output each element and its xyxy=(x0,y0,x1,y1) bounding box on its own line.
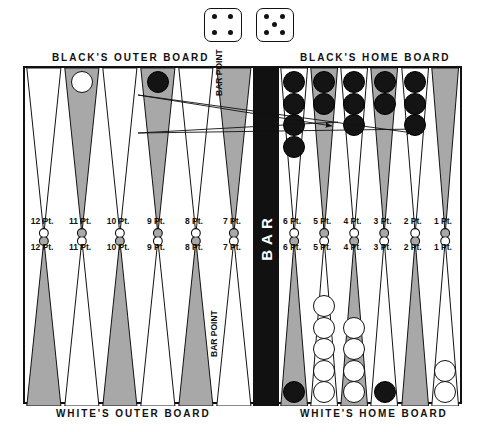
die-right-pip xyxy=(280,30,285,35)
point-12-bottom[interactable] xyxy=(26,237,62,406)
point-label-1-bottom: 1 Pt. xyxy=(427,216,459,226)
checker-black[interactable] xyxy=(374,381,396,403)
die-left-pip xyxy=(212,30,217,35)
point-label-11-top: 11 Pt. xyxy=(64,242,96,252)
point-12-top[interactable] xyxy=(26,68,62,237)
backgammon-diagram: BAR BAR POINT BAR POINT BLACK'S OUTER BO… xyxy=(0,0,485,432)
point-9-bottom[interactable] xyxy=(140,237,176,406)
caption-whites-outer-board: WHITE'S OUTER BOARD xyxy=(56,408,211,419)
point-label-10-top: 10 Pt. xyxy=(102,242,134,252)
point-label-5-top: 5 Pt. xyxy=(306,242,338,252)
point-label-8-bottom: 8 Pt. xyxy=(178,216,210,226)
bar-label: BAR xyxy=(258,213,275,261)
checker-black[interactable] xyxy=(283,93,305,115)
point-triangle xyxy=(102,68,138,237)
die-right xyxy=(256,8,294,42)
die-right-pip xyxy=(264,30,269,35)
dice-area xyxy=(0,4,485,46)
point-label-7-bottom: 7 Pt. xyxy=(216,216,248,226)
point-5-bottom[interactable] xyxy=(310,237,338,406)
checker-black[interactable] xyxy=(313,93,335,115)
backgammon-board: BAR xyxy=(23,66,462,404)
point-triangle xyxy=(401,237,429,406)
point-9-top[interactable] xyxy=(140,68,176,237)
point-10-bottom[interactable] xyxy=(102,237,138,406)
point-8-top[interactable] xyxy=(178,68,214,237)
checker-black[interactable] xyxy=(283,381,305,403)
point-triangle xyxy=(178,68,214,237)
die-left-pip xyxy=(212,14,217,19)
checker-black[interactable] xyxy=(374,71,396,93)
point-label-7-top: 7 Pt. xyxy=(216,242,248,252)
checker-black[interactable] xyxy=(404,114,426,136)
point-2-top[interactable] xyxy=(401,68,429,237)
checker-black[interactable] xyxy=(404,93,426,115)
checker-black[interactable] xyxy=(147,71,169,93)
checker-white[interactable] xyxy=(434,360,456,382)
point-label-2-top: 2 Pt. xyxy=(397,242,429,252)
point-label-6-top: 6 Pt. xyxy=(276,242,308,252)
die-left-pip xyxy=(228,14,233,19)
point-triangle xyxy=(102,237,138,406)
bar: BAR xyxy=(253,68,279,406)
checker-white[interactable] xyxy=(71,71,93,93)
die-right-pip xyxy=(280,14,285,19)
die-left xyxy=(204,8,242,42)
point-label-10-bottom: 10 Pt. xyxy=(102,216,134,226)
checker-white[interactable] xyxy=(313,360,335,382)
point-6-top[interactable] xyxy=(280,68,308,237)
checker-black[interactable] xyxy=(404,71,426,93)
point-label-1-top: 1 Pt. xyxy=(427,242,459,252)
quadrant-whites-home-board xyxy=(279,237,460,406)
point-triangle xyxy=(140,237,176,406)
point-triangle xyxy=(216,237,252,406)
point-triangle xyxy=(64,68,100,237)
point-label-9-bottom: 9 Pt. xyxy=(140,216,172,226)
point-6-bottom[interactable] xyxy=(280,237,308,406)
checker-black[interactable] xyxy=(283,114,305,136)
point-triangle xyxy=(26,237,62,406)
die-left-pip xyxy=(228,30,233,35)
caption-blacks-outer-board: BLACK'S OUTER BOARD xyxy=(52,52,209,63)
checker-black[interactable] xyxy=(374,93,396,115)
checker-black[interactable] xyxy=(343,93,365,115)
point-2-bottom[interactable] xyxy=(401,237,429,406)
point-label-9-top: 9 Pt. xyxy=(140,242,172,252)
checker-white[interactable] xyxy=(343,317,365,339)
point-label-12-top: 12 Pt. xyxy=(26,242,58,252)
bar-point-label-top: BAR POINT xyxy=(214,49,224,96)
checker-black[interactable] xyxy=(283,71,305,93)
point-4-bottom[interactable] xyxy=(340,237,368,406)
point-triangle xyxy=(26,68,62,237)
point-label-3-bottom: 3 Pt. xyxy=(367,216,399,226)
point-1-top[interactable] xyxy=(431,68,459,237)
point-triangle xyxy=(64,237,100,406)
point-label-11-bottom: 11 Pt. xyxy=(64,216,96,226)
checker-white[interactable] xyxy=(313,317,335,339)
point-5-top[interactable] xyxy=(310,68,338,237)
caption-blacks-home-board: BLACK'S HOME BOARD xyxy=(300,52,450,63)
point-label-5-bottom: 5 Pt. xyxy=(306,216,338,226)
point-label-12-bottom: 12 Pt. xyxy=(26,216,58,226)
point-label-8-top: 8 Pt. xyxy=(178,242,210,252)
caption-whites-home-board: WHITE'S HOME BOARD xyxy=(300,408,448,419)
checker-white[interactable] xyxy=(343,360,365,382)
point-3-bottom[interactable] xyxy=(370,237,398,406)
point-label-6-bottom: 6 Pt. xyxy=(276,216,308,226)
checker-black[interactable] xyxy=(283,136,305,158)
point-10-top[interactable] xyxy=(102,68,138,237)
die-right-pip xyxy=(264,14,269,19)
point-1-bottom[interactable] xyxy=(431,237,459,406)
die-right-pip xyxy=(272,22,277,27)
bar-point-label-bottom: BAR POINT xyxy=(209,310,219,357)
checker-white[interactable] xyxy=(434,381,456,403)
quadrant-blacks-home-board xyxy=(279,68,460,237)
point-11-top[interactable] xyxy=(64,68,100,237)
point-4-top[interactable] xyxy=(340,68,368,237)
point-7-bottom[interactable] xyxy=(216,237,252,406)
point-triangle xyxy=(140,68,176,237)
point-label-4-bottom: 4 Pt. xyxy=(336,216,368,226)
point-label-2-bottom: 2 Pt. xyxy=(397,216,429,226)
point-11-bottom[interactable] xyxy=(64,237,100,406)
point-3-top[interactable] xyxy=(370,68,398,237)
